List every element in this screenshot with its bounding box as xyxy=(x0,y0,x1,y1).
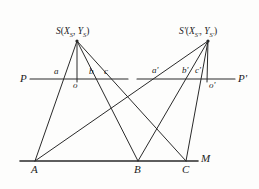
coord-close-left: ) xyxy=(86,26,89,36)
angle-label-b-prime: b' xyxy=(182,66,188,75)
station-right-name: S' xyxy=(179,26,186,36)
label-o: o xyxy=(73,81,78,90)
angle-label-b: b xyxy=(89,67,94,76)
ray-S-to-A xyxy=(35,41,77,161)
label-o-prime: o' xyxy=(209,81,215,90)
ray-Sprime-to-A xyxy=(35,41,208,161)
coord-close-right: ) xyxy=(214,26,217,36)
diagram-canvas: S(XS, YS) S'(XS', YS') P P' a b c a' b' … xyxy=(0,0,259,189)
angle-label-c-prime: c' xyxy=(195,66,201,75)
ray-S-to-B xyxy=(77,41,138,161)
station-left-marker xyxy=(75,39,78,42)
label-P-prime: P' xyxy=(238,73,247,84)
station-right-marker xyxy=(206,39,209,42)
ray-S-to-C xyxy=(77,41,186,161)
label-B: B xyxy=(134,164,141,175)
angle-label-a: a xyxy=(54,67,59,76)
geometry-figure xyxy=(0,0,259,189)
angle-label-c: c xyxy=(104,67,108,76)
label-A: A xyxy=(31,164,38,175)
label-C: C xyxy=(182,164,189,175)
station-left-label: S(XS, YS) xyxy=(56,27,89,38)
label-P: P xyxy=(20,73,27,84)
label-M: M xyxy=(201,153,210,164)
station-right-label: S'(XS', YS') xyxy=(179,27,217,38)
angle-label-a-prime: a' xyxy=(152,66,158,75)
